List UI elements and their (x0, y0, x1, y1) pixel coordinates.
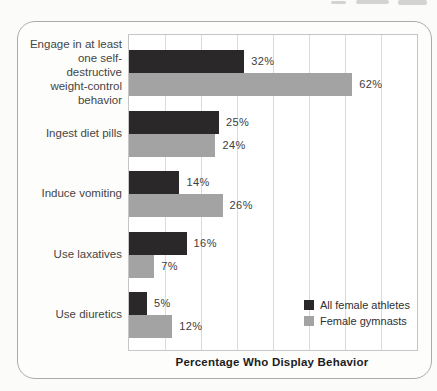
bar-athletes-2 (129, 171, 179, 194)
bar-value-label: 24% (222, 134, 245, 157)
bar-athletes-1 (129, 111, 219, 134)
bar-athletes-0 (129, 50, 244, 73)
bar-value-label: 14% (186, 171, 209, 194)
bar-athletes-4 (129, 292, 147, 315)
bar-value-label: 25% (226, 111, 249, 134)
bar-gymnasts-3 (129, 255, 154, 278)
bar-gymnasts-1 (129, 134, 215, 157)
figure-page: 32%62%25%24%14%26%16%7%5%12%All female a… (0, 0, 437, 391)
cropped-page-text-fragment (398, 0, 427, 5)
chart-panel: 32%62%25%24%14%26%16%7%5%12%All female a… (17, 21, 432, 379)
category-label-1: Ingest diet pills (24, 126, 122, 140)
bar-value-label: 32% (251, 50, 274, 73)
bar-value-label: 5% (154, 292, 171, 315)
cropped-page-text-fragment (331, 1, 346, 4)
bar-value-label: 16% (194, 232, 217, 255)
legend-label: All female athletes (320, 299, 410, 311)
bar-gymnasts-4 (129, 315, 172, 338)
category-label-0: Engage in at leastone self-destructivewe… (24, 37, 122, 107)
legend-entry: All female athletes (304, 297, 410, 313)
bar-value-label: 7% (161, 255, 178, 278)
x-axis-title: Percentage Who Display Behavior (128, 356, 416, 368)
bar-value-label: 12% (179, 315, 202, 338)
bar-value-label: 62% (359, 73, 382, 96)
category-label-3: Use laxatives (24, 247, 122, 261)
bar-value-label: 26% (230, 194, 253, 217)
plot-area: 32%62%25%24%14%26%16%7%5%12%All female a… (128, 34, 418, 351)
category-label-4: Use diuretics (24, 307, 122, 321)
legend-swatch-icon (304, 316, 314, 326)
bar-gymnasts-2 (129, 194, 223, 217)
legend-entry: Female gymnasts (304, 313, 410, 329)
bar-gymnasts-0 (129, 73, 352, 96)
legend: All female athletesFemale gymnasts (304, 297, 410, 329)
legend-label: Female gymnasts (320, 315, 407, 327)
cropped-page-text-fragment (356, 0, 389, 4)
bar-athletes-3 (129, 232, 187, 255)
legend-swatch-icon (304, 300, 314, 310)
category-label-2: Induce vomiting (24, 186, 122, 200)
